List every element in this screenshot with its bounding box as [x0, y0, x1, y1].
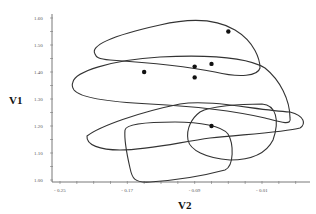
- x-tick-label: - 0.09: [189, 188, 201, 193]
- x-tick-label: - 0.01: [256, 188, 268, 193]
- y-tick-label: 1.60: [34, 16, 43, 21]
- y-tick-labels: 1.001.101.201.301.401.501.60: [34, 16, 43, 183]
- x-ticks: [60, 181, 296, 184]
- y-tick-label: 1.50: [34, 43, 43, 48]
- contour-5: [125, 122, 232, 182]
- data-point: [209, 124, 213, 128]
- data-point: [209, 62, 213, 66]
- contours: [72, 20, 303, 182]
- y-axis-title: V1: [9, 94, 22, 106]
- data-point: [142, 70, 146, 74]
- data-points: [142, 29, 231, 128]
- y-tick-label: 1.40: [34, 70, 43, 75]
- y-tick-label: 1.10: [34, 151, 43, 156]
- data-point: [192, 64, 196, 68]
- data-point: [226, 29, 230, 33]
- y-ticks: [50, 18, 53, 180]
- y-tick-label: 1.20: [34, 124, 43, 129]
- x-tick-label: - 0.17: [121, 188, 133, 193]
- x-tick-label: - 0.25: [54, 188, 66, 193]
- contour-1: [94, 20, 260, 75]
- y-tick-label: 1.30: [34, 97, 43, 102]
- data-point: [192, 75, 196, 79]
- chart: 1.001.101.201.301.401.501.60 - 0.25- 0.1…: [0, 0, 316, 214]
- y-tick-label: 1.00: [34, 178, 43, 183]
- x-tick-labels: - 0.25- 0.17- 0.09- 0.01: [54, 188, 268, 193]
- x-axis-title: V2: [178, 199, 192, 211]
